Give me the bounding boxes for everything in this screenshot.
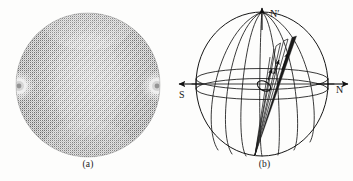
panel-a: (a) xyxy=(0,0,176,181)
left-defect xyxy=(3,70,35,102)
panel-a-graphic xyxy=(0,0,176,181)
figure-root: (a) xyxy=(0,0,353,181)
director-cone xyxy=(255,36,297,155)
droplet-disk xyxy=(3,0,173,180)
south-label: S xyxy=(179,89,185,100)
panel-b-graphic: N′ S N xyxy=(176,0,353,181)
caption-b: (b) xyxy=(176,159,353,169)
core-loop xyxy=(255,79,272,94)
caption-a: (a) xyxy=(0,159,176,169)
north-label: N xyxy=(336,84,343,95)
panel-b: N′ S N (b) xyxy=(176,0,353,181)
right-defect xyxy=(141,70,173,102)
north-prime-label: N′ xyxy=(270,8,279,19)
